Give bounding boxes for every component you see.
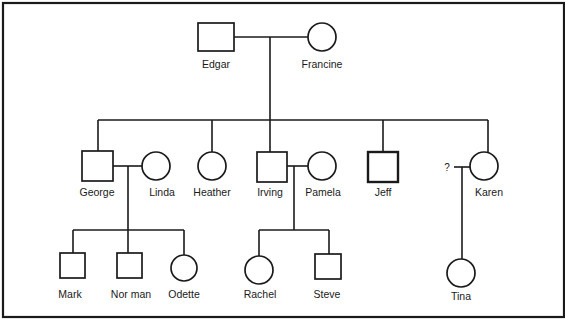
male-square-icon <box>82 151 113 181</box>
unknown-partner-mark: ? <box>444 162 450 173</box>
person-label-karen: Karen <box>475 186 503 198</box>
female-circle-icon <box>198 152 226 180</box>
female-circle-icon <box>171 255 197 281</box>
person-label-tina: Tina <box>451 290 471 302</box>
female-circle-icon <box>308 152 336 180</box>
connector-lines <box>73 37 488 259</box>
female-circle-icon <box>308 23 336 51</box>
person-label-odette: Odette <box>168 288 200 300</box>
person-label-steve: Steve <box>314 288 341 300</box>
person-label-francine: Francine <box>302 58 343 70</box>
person-label-rachel: Rachel <box>244 288 277 300</box>
male-square-icon <box>368 152 398 182</box>
person-label-linda: Linda <box>149 186 175 198</box>
female-circle-icon <box>142 152 170 180</box>
person-label-irving: Irving <box>257 186 283 198</box>
person-label-norman: Nor man <box>111 288 151 300</box>
male-square-icon <box>257 152 287 182</box>
people <box>60 23 498 287</box>
person-label-heather: Heather <box>193 186 231 198</box>
female-circle-icon <box>447 259 475 287</box>
female-circle-icon <box>470 152 498 180</box>
male-square-icon <box>198 23 234 51</box>
male-square-icon <box>117 253 142 278</box>
person-label-jeff: Jeff <box>375 186 392 198</box>
person-label-edgar: Edgar <box>202 58 231 70</box>
person-label-george: George <box>79 186 114 198</box>
person-label-mark: Mark <box>58 288 82 300</box>
male-square-icon <box>60 253 85 278</box>
pedigree-diagram: EdgarFrancineGeorgeLindaHeatherIrvingPam… <box>0 0 565 320</box>
person-label-pamela: Pamela <box>305 186 341 198</box>
female-circle-icon <box>245 256 273 284</box>
male-square-icon <box>315 254 341 279</box>
